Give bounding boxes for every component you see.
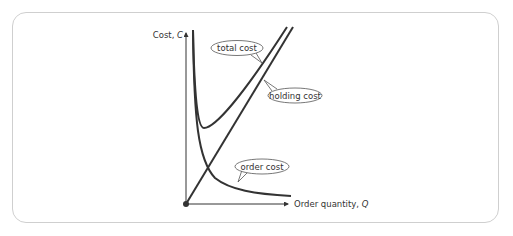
callout-total-cost: total cost [211, 41, 263, 64]
x-axis-label: Order quantity, Q [294, 199, 369, 209]
callout-holding-cost-label: holding cost [269, 91, 321, 101]
callout-holding-cost: holding cost [264, 80, 322, 103]
y-axis-label: Cost, C [153, 30, 183, 40]
callout-order-cost-label: order cost [240, 162, 284, 172]
callout-order-cost: order cost [235, 159, 289, 182]
eoq-diagram: Cost, C Order quantity, Q total cost hol… [0, 0, 513, 236]
callout-total-cost-label: total cost [217, 43, 257, 53]
